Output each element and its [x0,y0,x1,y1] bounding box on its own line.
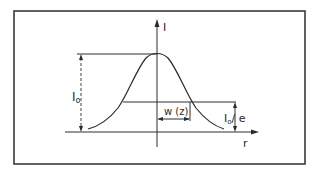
one-over-e-label: Io/ e [224,112,246,126]
level-arrow-down-icon [233,126,237,132]
r-axis-label: r [243,137,248,150]
i-axis [155,19,160,147]
gaussian-curve [88,54,224,130]
peak-intensity-dimension [79,54,83,132]
i-axis-arrow-icon [155,19,160,27]
r-axis-arrow-icon [251,130,259,135]
dimension-arrow-up-icon [79,54,83,60]
gaussian-beam-diagram: r I Io w (z) [0,0,321,171]
peak-intensity-label: Io [72,90,81,105]
width-arrow-left-icon [157,117,163,121]
level-arrow-up-icon [233,102,237,108]
r-axis [65,130,259,135]
diagram-frame [14,11,305,164]
beam-width-label: w (z) [164,106,189,117]
dimension-arrow-down-icon [79,126,83,132]
i-axis-label: I [163,21,166,34]
width-arrow-right-icon [184,117,190,121]
